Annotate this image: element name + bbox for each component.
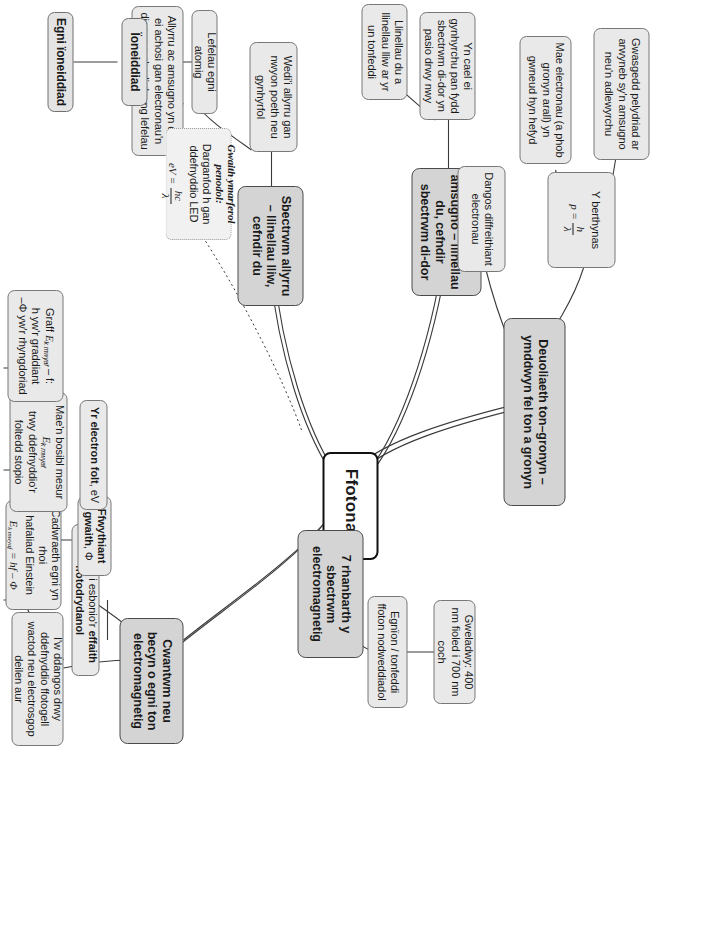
fraction-hc-lambda: hc λ [159, 188, 183, 204]
node-hafaliad-einstein[interactable]: Cadwraeth egni yn rhoi hafaliad Einstein… [5, 500, 61, 610]
graff-line2: h yw'r graddiant [28, 308, 41, 384]
node-ioneiddiad-label: Ïoneiddiad [127, 24, 141, 100]
node-llinellau-tonfeddi[interactable]: Llinellau du a llinellau lliw ar yr un t… [361, 4, 407, 100]
node-electron-folt-label: Yr electron folt, eV [86, 406, 99, 504]
practical-equation: eV = hc λ [159, 163, 183, 205]
node-ffotogell-label: I'w ddangos drwy ddefnyddio ffotogell wa… [11, 618, 63, 740]
node-lefelau-label: Lefelau egni atomig [191, 16, 217, 108]
branch-deuoliaeth[interactable]: Deuoliaeth ton–gronyn – ymddwyn fel ton … [503, 318, 565, 506]
branch-cwantwm[interactable]: Cwantwm neu becyn o egni ton electromagn… [119, 618, 183, 744]
node-gwasgedd-pelydriad[interactable]: Gwasgedd pelydriad ar arwyneb sy'n amsug… [593, 28, 649, 160]
perthynas-equation: p = h λ [561, 204, 585, 236]
node-mesur-foltedd-stopio[interactable]: Mae'n bosibl mesur Ek mwyaf trwy ddefnyd… [9, 392, 67, 512]
practical-heading: Gwaith ymarferol penodol: [212, 134, 238, 234]
branch-cwantwm-label: Cwantwm neu becyn o egni ton electromagn… [129, 624, 174, 738]
node-mae-electronau-label: Mae electronau (a phob gronyn arall) yn … [525, 42, 564, 158]
node-cynhyrchu-label: Yn cael ei gynhyrchu pan fydd sbectrwm d… [421, 18, 473, 114]
branch-7-rhanbarth-label: 7 rhanbarth y sbectrwm electromagnetig [308, 536, 353, 652]
practical-text: Darganfod h gan ddefnyddio LED [186, 134, 212, 234]
node-lefelau-egni[interactable]: Lefelau egni atomig [191, 10, 217, 114]
mind-map-canvas: Ffotonau Deuoliaeth ton–gronyn – ymddwyn… [0, 0, 703, 946]
fraction-h-lambda: h λ [561, 223, 585, 234]
mind-map-screenshot: Ffotonau Deuoliaeth ton–gronyn – ymddwyn… [0, 0, 703, 946]
node-diffreithiant-electronau[interactable]: Dangos diffreithiant electronau [457, 166, 505, 272]
node-egnion-tonfeddi[interactable]: Egnïon / tonfeddi ffoton nodweddiadol [367, 596, 407, 708]
node-cynhyrchu-sbectrwm[interactable]: Yn cael ei gynhyrchu pan fydd sbectrwm d… [419, 12, 475, 120]
graff-line1: Graff Ek mwyaf – f: [41, 308, 55, 384]
node-llinellau-label: Llinellau du a llinellau lliw ar yr un t… [364, 10, 403, 94]
node-gwaith-ymarferol[interactable]: Gwaith ymarferol penodol: Darganfod h ga… [165, 128, 231, 240]
cadwraeth-line2: hafaliad Einstein [22, 515, 35, 595]
node-ioneiddiad[interactable]: Ïoneiddiad [121, 18, 147, 106]
perthynas-label: Y berthynas [588, 191, 601, 249]
node-gwasgedd-label: Gwasgedd pelydriad ar arwyneb sy'n amsug… [601, 34, 640, 154]
node-graff-gradiant[interactable]: Graff Ek mwyaf – f: h yw'r graddiant –Φ … [7, 290, 63, 402]
mesur-symbol: Ek mwyaf [38, 436, 52, 467]
branch-sbectrwm-allyrru-label: Sbectrwm allyrru – llinellau lliw, cefnd… [248, 192, 293, 300]
node-egnion-label: Egnïon / tonfeddi ffoton nodweddiadol [374, 602, 400, 702]
branch-7-rhanbarth[interactable]: 7 rhanbarth y sbectrwm electromagnetig [297, 530, 363, 658]
node-nwyon-label: Wedi'i allyrru gan nwyon poeth neu gynhy… [253, 48, 292, 146]
node-egni-ioneiddiad-label: Egni ïoneiddiad [53, 18, 67, 106]
graff-line3: –Φ yw'r rhyngdoriad [15, 297, 28, 394]
cadwraeth-line1: Cadwraeth egni yn rhoi [35, 506, 61, 604]
node-electron-folt[interactable]: Yr electron folt, eV [79, 400, 107, 510]
node-gweladwy[interactable]: Gweladwy: 400 nm fioled i 700 nm coch [433, 600, 475, 704]
node-gweladwy-label: Gweladwy: 400 nm fioled i 700 nm coch [434, 606, 473, 698]
node-ffotogell-electrosgop[interactable]: I'w ddangos drwy ddefnyddio ffotogell wa… [11, 612, 63, 746]
node-mae-electronau[interactable]: Mae electronau (a phob gronyn arall) yn … [519, 36, 571, 164]
node-perthynas-formula[interactable]: Y berthynas p = h λ [547, 172, 615, 268]
branch-sbectrwm-allyrru[interactable]: Sbectrwm allyrru – llinellau lliw, cefnd… [237, 186, 303, 306]
node-diffreithiant-label: Dangos diffreithiant electronau [468, 172, 494, 266]
branch-deuoliaeth-label: Deuoliaeth ton–gronyn – ymddwyn fel ton … [519, 324, 549, 500]
node-egni-ioneiddiad[interactable]: Egni ïoneiddiad [47, 12, 73, 112]
mesur-line2: trwy ddefnyddio'r foltedd stopio [11, 398, 37, 506]
node-ffwythiant-label: Ffwythiant gwaith, Φ [81, 502, 107, 570]
mesur-line1: Mae'n bosibl mesur [52, 405, 65, 499]
einstein-equation: Ek mwyaf = hf – Φ [5, 520, 19, 589]
node-nwyon-poeth[interactable]: Wedi'i allyrru gan nwyon poeth neu gynhy… [249, 42, 297, 152]
